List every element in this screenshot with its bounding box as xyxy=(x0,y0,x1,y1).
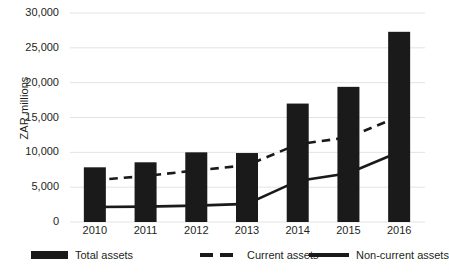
bar xyxy=(337,87,359,222)
solid-segment xyxy=(309,253,349,257)
bar xyxy=(84,167,106,222)
bar xyxy=(135,162,157,222)
bar xyxy=(388,32,410,222)
legend-item[interactable]: Total assets xyxy=(31,246,133,264)
dashed-line-icon xyxy=(200,250,240,260)
legend-label: Total assets xyxy=(75,249,133,261)
bar xyxy=(287,104,309,222)
solid-line-icon xyxy=(309,250,349,260)
legend-item[interactable]: Non-current assets xyxy=(309,246,449,264)
legend-label: Current assets xyxy=(247,249,319,261)
bar-series-total-assets xyxy=(84,32,410,222)
legend-label: Non-current assets xyxy=(356,249,449,261)
dash-segment xyxy=(220,253,233,257)
dash-segment xyxy=(200,253,213,257)
legend-item[interactable]: Current assets xyxy=(200,246,319,264)
bar-swatch-icon xyxy=(31,251,68,259)
chart-legend: Total assetsCurrent assetsNon-current as… xyxy=(0,246,431,268)
bar xyxy=(185,152,207,222)
